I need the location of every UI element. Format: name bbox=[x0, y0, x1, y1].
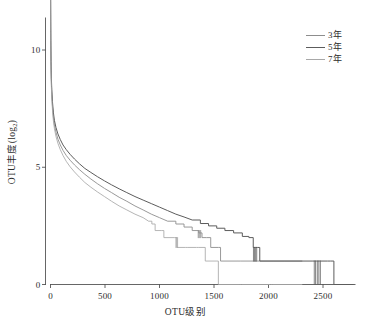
otu-rank-abundance-chart: 05001000150020002500 0510 OTU级别 OTU丰度(lo… bbox=[0, 0, 371, 322]
x-tick-label: 500 bbox=[98, 291, 112, 301]
x-axis-title: OTU级别 bbox=[0, 304, 371, 318]
x-tick-label: 2500 bbox=[314, 291, 333, 301]
y-axis-title-subscript: 2 bbox=[11, 123, 18, 127]
y-axis-title-main: OTU丰度(log bbox=[7, 127, 17, 185]
y-tick-label: 10 bbox=[19, 45, 41, 55]
legend-label: 5年 bbox=[328, 42, 342, 52]
legend: 3年5年7年 bbox=[306, 30, 342, 64]
legend-item-3[interactable]: 7年 bbox=[306, 54, 342, 64]
x-tick-label: 0 bbox=[48, 291, 53, 301]
x-tick-label: 2000 bbox=[259, 291, 278, 301]
y-tick-label: 0 bbox=[19, 280, 41, 290]
legend-label: 7年 bbox=[328, 54, 342, 64]
y-axis-title: OTU丰度(log2) bbox=[4, 120, 18, 185]
legend-line-swatch bbox=[306, 59, 325, 60]
series-line-1 bbox=[51, 0, 303, 261]
x-tick-label: 1000 bbox=[150, 291, 169, 301]
y-tick-label: 5 bbox=[19, 162, 41, 172]
x-tick-label: 1500 bbox=[205, 291, 224, 301]
legend-line-swatch bbox=[306, 47, 325, 48]
legend-line-swatch bbox=[306, 35, 325, 36]
legend-label: 3年 bbox=[328, 30, 342, 40]
legend-item-2[interactable]: 5年 bbox=[306, 42, 342, 52]
legend-item-1[interactable]: 3年 bbox=[306, 30, 342, 40]
